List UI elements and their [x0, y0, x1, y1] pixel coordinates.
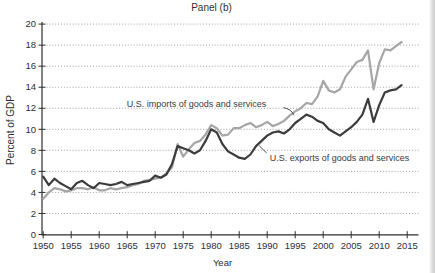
x-tick-label: 1970 [145, 240, 166, 251]
x-tick-label: 2010 [369, 240, 390, 251]
y-tick-label: 10 [25, 124, 36, 135]
exports-series-label: U.S. exports of goods and services [270, 153, 410, 163]
x-tick-label: 1985 [229, 240, 250, 251]
imports-line [43, 42, 401, 199]
x-tick-label: 1965 [117, 240, 138, 251]
y-tick-label: 20 [25, 18, 36, 29]
y-tick-label: 4 [31, 187, 36, 198]
x-tick-label: 1955 [61, 240, 82, 251]
y-tick-label: 12 [25, 102, 36, 113]
y-tick-label: 16 [25, 60, 36, 71]
x-tick-label: 1950 [33, 240, 54, 251]
x-tick-label: 2015 [397, 240, 418, 251]
annotation-pointer-line [259, 146, 267, 153]
x-tick-label: 1980 [201, 240, 222, 251]
x-tick-label: 1995 [285, 240, 306, 251]
x-tick-label: 2000 [313, 240, 334, 251]
y-tick-label: 6 [31, 166, 36, 177]
imports-series-label: U.S. imports of goods and services [127, 99, 267, 109]
y-tick-label: 18 [25, 39, 36, 50]
y-tick-label: 8 [31, 145, 36, 156]
x-tick-label: 1975 [173, 240, 194, 251]
y-tick-label: 0 [31, 229, 36, 240]
line-chart-svg: 0246810121416182019501955196019651970197… [0, 0, 435, 273]
x-axis-title: Year [0, 257, 435, 268]
x-tick-label: 2005 [341, 240, 362, 251]
x-tick-label: 1990 [257, 240, 278, 251]
y-tick-label: 2 [31, 208, 36, 219]
page-edge-shading [429, 0, 435, 273]
y-tick-label: 14 [25, 81, 36, 92]
x-tick-label: 1960 [89, 240, 110, 251]
